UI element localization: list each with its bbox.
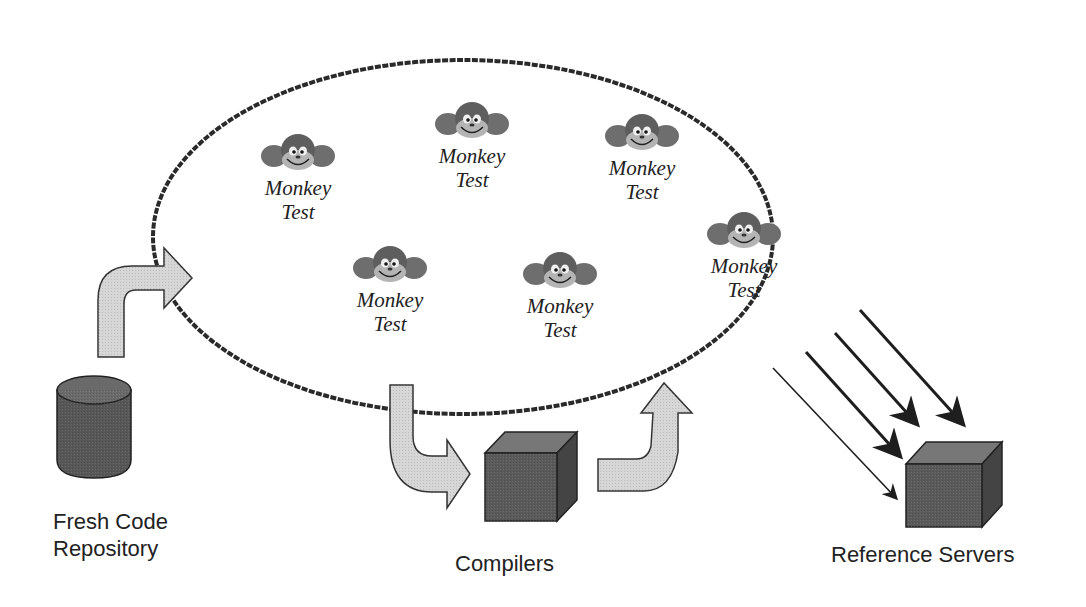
monkey-face-icon bbox=[434, 100, 510, 144]
monkey-label-line2: Test bbox=[510, 318, 610, 342]
repository-cylinder-icon bbox=[57, 376, 131, 478]
monkey-face-icon bbox=[260, 132, 336, 176]
monkey-test-node-4: Monkey Test bbox=[340, 244, 440, 336]
monkey-test-node-5: Monkey Test bbox=[510, 250, 610, 342]
curved-arrow-tests-to-compilers bbox=[390, 385, 470, 508]
monkey-test-node-6: Monkey Test bbox=[694, 210, 794, 302]
monkey-face-icon bbox=[522, 250, 598, 294]
monkey-face-icon bbox=[706, 210, 782, 254]
monkey-label-line1: Monkey bbox=[340, 288, 440, 312]
monkey-label-line2: Test bbox=[422, 168, 522, 192]
monkey-label-line1: Monkey bbox=[510, 294, 610, 318]
monkey-test-node-2: Monkey Test bbox=[422, 100, 522, 192]
repository-label-line2: Repository bbox=[53, 535, 168, 562]
monkey-label-line2: Test bbox=[248, 200, 348, 224]
monkey-test-node-3: Monkey Test bbox=[592, 112, 692, 204]
repository-label-line1: Fresh Code bbox=[53, 508, 168, 535]
curved-arrow-repo-to-tests bbox=[98, 248, 192, 357]
monkey-label-line1: Monkey bbox=[248, 176, 348, 200]
reference-servers-label: Reference Servers bbox=[831, 541, 1014, 568]
repository-label: Fresh Code Repository bbox=[53, 508, 168, 562]
monkey-face-icon bbox=[352, 244, 428, 288]
compilers-label: Compilers bbox=[455, 550, 554, 577]
monkey-label-line1: Monkey bbox=[422, 144, 522, 168]
monkey-label-line2: Test bbox=[592, 180, 692, 204]
monkey-label-line2: Test bbox=[694, 278, 794, 302]
monkey-label-line2: Test bbox=[340, 312, 440, 336]
curved-arrow-compilers-to-tests bbox=[598, 383, 692, 491]
monkey-label-line1: Monkey bbox=[592, 156, 692, 180]
monkey-label-line1: Monkey bbox=[694, 254, 794, 278]
reference-servers-cube-icon bbox=[906, 442, 1002, 527]
compilers-cube-icon bbox=[485, 432, 577, 521]
monkey-face-icon bbox=[604, 112, 680, 156]
monkey-test-node-1: Monkey Test bbox=[248, 132, 348, 224]
